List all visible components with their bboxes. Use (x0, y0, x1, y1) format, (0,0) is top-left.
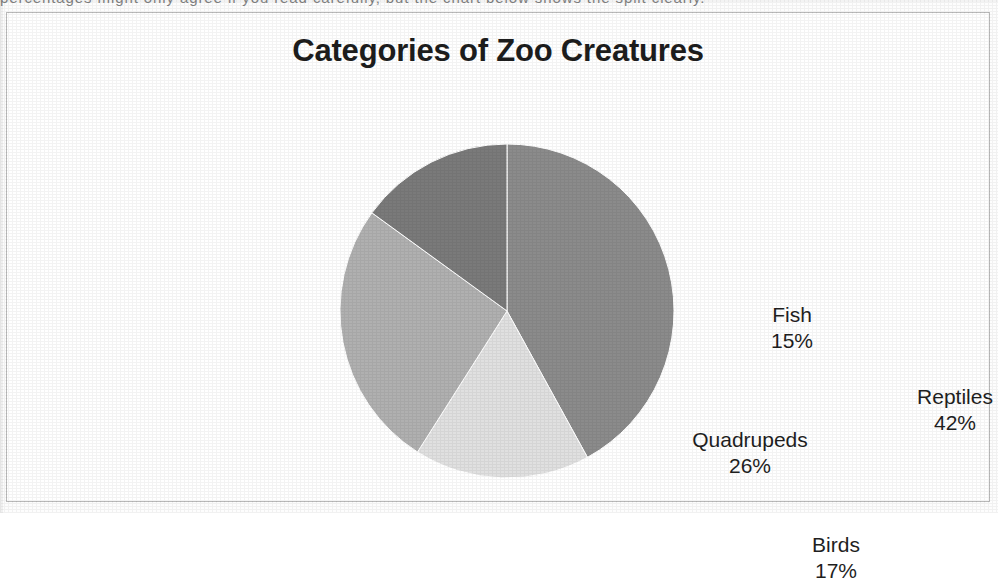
pie-label-reptiles: Reptiles 42% (885, 384, 998, 436)
pie-label-quadrupeds-value: 26% (664, 453, 836, 479)
pie-label-fish: Fish 15% (737, 302, 847, 354)
pie-label-reptiles-value: 42% (885, 410, 998, 436)
pie-label-fish-name: Fish (737, 302, 847, 328)
chart-title: Categories of Zoo Creatures (7, 33, 989, 69)
pie-label-quadrupeds-name: Quadrupeds (664, 427, 836, 453)
pie-label-birds: Birds 17% (776, 532, 896, 582)
pie-chart-svg (339, 143, 675, 479)
clipped-body-text: percentages might only agree if you read… (0, 0, 998, 7)
chart-frame: Categories of Zoo Creatures Fish 15% Rep… (6, 12, 990, 502)
pie-label-quadrupeds: Quadrupeds 26% (664, 427, 836, 479)
pie-label-fish-value: 15% (737, 328, 847, 354)
pie-label-birds-name: Birds (776, 532, 896, 558)
pie-slice-group (340, 144, 674, 478)
pie-label-reptiles-name: Reptiles (885, 384, 998, 410)
pie-label-birds-value: 17% (776, 558, 896, 582)
pie-chart: Fish 15% Reptiles 42% Quadrupeds 26% Bir… (339, 143, 675, 479)
